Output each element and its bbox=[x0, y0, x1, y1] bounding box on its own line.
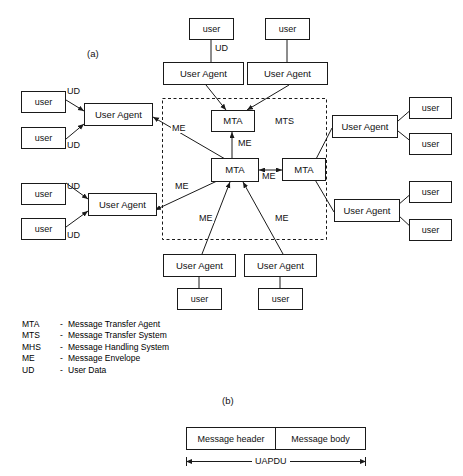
node-right-upper-ua: User Agent bbox=[332, 115, 398, 138]
legend-row: MTS - Message Transfer System bbox=[22, 330, 169, 341]
edge-label-me-bottom-left: ME bbox=[198, 214, 214, 223]
legend-abbr: ME bbox=[22, 353, 60, 364]
node-top-ua-left: User Agent bbox=[163, 62, 244, 85]
edge-label-ud-left-upper-2: UD bbox=[67, 141, 80, 150]
edge-top-ua-right-to-mta bbox=[247, 85, 289, 110]
node-mta-right: MTA bbox=[282, 158, 326, 181]
legend-abbr: MTS bbox=[22, 330, 60, 341]
edge-label-me-horizontal: ME bbox=[261, 172, 277, 181]
node-top-user-left: user bbox=[189, 18, 234, 40]
node-left-lower-user-1: user bbox=[21, 183, 66, 205]
legend-row: MHS - Message Handling System bbox=[22, 342, 169, 353]
edge-label-ud-left-upper-1: UD bbox=[67, 87, 80, 96]
edge-left-lower-user2-to-ua bbox=[66, 211, 88, 227]
legend-abbr: MHS bbox=[22, 342, 60, 353]
mts-region-label: MTS bbox=[275, 117, 294, 126]
node-right-upper-user-1: user bbox=[409, 97, 452, 119]
node-top-user-right: user bbox=[265, 18, 310, 40]
node-right-upper-user-2: user bbox=[409, 133, 452, 155]
mhs-figure: (a) (b) user user User Agent User Agent … bbox=[0, 0, 463, 476]
node-bottom-ua-left: User Agent bbox=[163, 254, 236, 277]
legend-row: MTA - Message Transfer Agent bbox=[22, 319, 169, 330]
edge-top-ua-left-to-mta bbox=[206, 85, 226, 110]
edge-label-me-left-upper: ME bbox=[171, 124, 187, 133]
edge-label-me-bottom-right: ME bbox=[274, 214, 290, 223]
node-right-lower-user-2: user bbox=[409, 219, 452, 241]
uapdu-span-label: UAPDU bbox=[252, 456, 290, 466]
legend-dash: - bbox=[60, 342, 68, 353]
legend-row: UD - User Data bbox=[22, 365, 169, 376]
node-left-upper-ua: User Agent bbox=[84, 103, 153, 126]
edge-label-me-left-lower: ME bbox=[174, 182, 190, 191]
node-left-lower-user-2: user bbox=[21, 218, 66, 240]
legend-abbr: MTA bbox=[22, 319, 60, 330]
node-mta-center: MTA bbox=[211, 158, 259, 182]
edge-label-ud-left-lower-2: UD bbox=[67, 231, 80, 240]
legend-abbr: UD bbox=[22, 365, 60, 376]
panel-b-label: (b) bbox=[222, 395, 234, 406]
legend-body: MTA - Message Transfer Agent MTS - Messa… bbox=[22, 319, 169, 376]
legend-text: Message Envelope bbox=[68, 353, 169, 364]
pdu-cell-message-body: Message body bbox=[275, 427, 366, 450]
legend-dash: - bbox=[60, 365, 68, 376]
node-left-upper-user-2: user bbox=[21, 127, 66, 149]
legend-text: Message Transfer System bbox=[68, 330, 169, 341]
node-mta-top: MTA bbox=[211, 110, 255, 132]
legend: MTA - Message Transfer Agent MTS - Messa… bbox=[22, 319, 169, 376]
panel-a-label: (a) bbox=[87, 48, 99, 59]
edge-mta-right-to-right-lower-ua bbox=[314, 178, 334, 212]
node-left-lower-ua: User Agent bbox=[88, 193, 157, 216]
node-bottom-user-left: user bbox=[177, 288, 222, 310]
legend-text: Message Handling System bbox=[68, 342, 169, 353]
pdu-cell-message-header: Message header bbox=[186, 427, 276, 450]
node-top-ua-right: User Agent bbox=[247, 62, 328, 85]
legend-dash: - bbox=[60, 353, 68, 364]
edge-label-ud-left-lower-1: UD bbox=[67, 182, 80, 191]
edge-left-upper-user2-to-ua bbox=[66, 124, 84, 139]
node-right-lower-user-1: user bbox=[409, 181, 452, 203]
node-right-lower-ua: User Agent bbox=[334, 199, 400, 222]
legend-text: Message Transfer Agent bbox=[68, 319, 169, 330]
edge-label-me-vertical: ME bbox=[237, 139, 253, 148]
node-bottom-ua-right: User Agent bbox=[244, 254, 317, 277]
legend-text: User Data bbox=[68, 365, 169, 376]
edge-label-ud-top: UD bbox=[214, 44, 229, 53]
legend-dash: - bbox=[60, 319, 68, 330]
node-bottom-user-right: user bbox=[258, 288, 303, 310]
legend-dash: - bbox=[60, 330, 68, 341]
legend-row: ME - Message Envelope bbox=[22, 353, 169, 364]
edge-left-upper-user1-to-ua bbox=[66, 100, 84, 111]
legend-table: MTA - Message Transfer Agent MTS - Messa… bbox=[22, 319, 169, 376]
node-left-upper-user-1: user bbox=[21, 91, 66, 113]
